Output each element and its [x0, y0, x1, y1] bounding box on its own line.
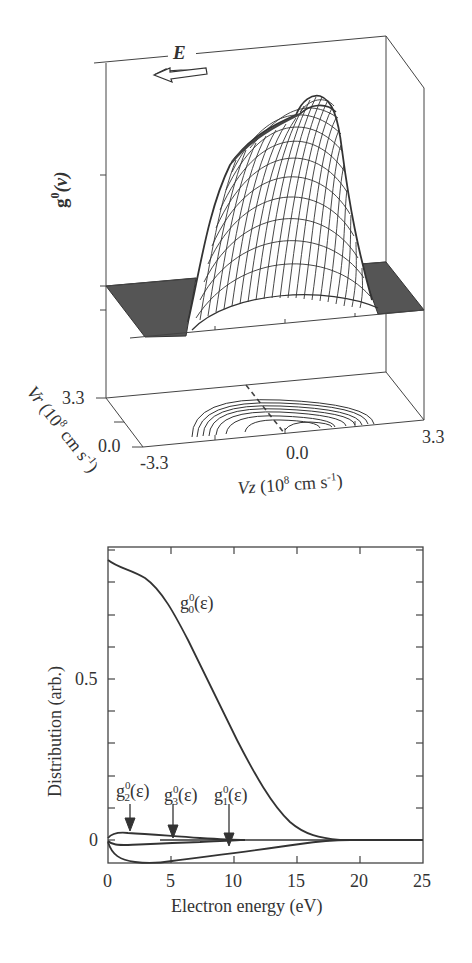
vr-tick-label-0: 0.0	[98, 436, 121, 456]
box-top-back-edge	[94, 36, 386, 63]
contour-projection	[192, 400, 374, 437]
svg-text:g0(v): g0(v)	[48, 171, 72, 208]
label-g3: g03(ε)	[164, 783, 198, 807]
surface-plot-3d	[94, 36, 424, 447]
x-tick-label: 0	[103, 871, 112, 891]
y-ticks	[108, 550, 423, 840]
y-tick-label: 0.5	[75, 669, 98, 689]
label-g2: g02(ε)	[116, 779, 150, 803]
vz-axis-label: VzVz (10 (108 cm s-1)	[237, 470, 343, 499]
x-tick-label: 25	[413, 871, 431, 891]
x-tick-label: 20	[350, 871, 368, 891]
x-tick-label: 5	[166, 871, 175, 891]
vr-tick-label-3.3: 3.3	[62, 388, 85, 408]
y-axis-title: Distribution (arb.)	[45, 666, 66, 797]
line-plot: g00(ε) g02(ε) g03(ε) g01(ε) 0 5 10 15 20…	[45, 547, 431, 917]
x-tick-label: 15	[287, 871, 305, 891]
vz-tick-label-mid: 0.0	[286, 443, 309, 463]
figure: E g0(v) 3.3 0.0 -3.3 0.0 3.3 VzVz (10 (1…	[0, 0, 472, 963]
y-tick-label: 0	[89, 830, 98, 850]
plot-frame	[108, 547, 423, 863]
surface-base-plane-left	[106, 278, 196, 337]
field-label: E	[172, 42, 186, 63]
x-tick-label: 10	[224, 871, 242, 891]
vz-tick-label-max: 3.3	[422, 427, 445, 447]
arrow-g2-icon	[125, 818, 135, 831]
z-axis-label: g0(v)	[48, 171, 72, 208]
curve-g0	[108, 560, 423, 840]
label-g0: g00(ε)	[180, 591, 214, 615]
label-g1: g01(ε)	[214, 783, 248, 807]
box-top-right-edge	[386, 36, 424, 88]
x-axis-title: Electron energy (eV)	[171, 896, 323, 917]
svg-text:VzVz (10 (108 cm s-1): VzVz (10 (108 cm s-1)	[237, 470, 343, 499]
vz-tick-label-min: -3.3	[140, 453, 169, 473]
surface-mesh	[188, 96, 378, 330]
